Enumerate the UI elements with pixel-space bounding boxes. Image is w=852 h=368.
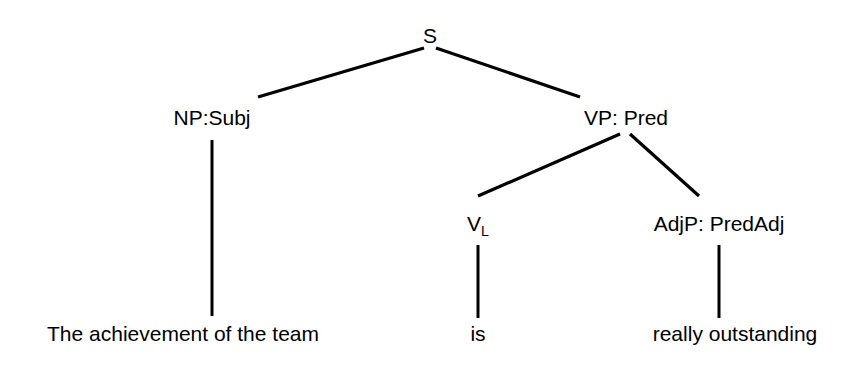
leaf-verb-text: is bbox=[470, 323, 485, 344]
node-vp-pred: VP: Pred bbox=[584, 107, 668, 128]
node-v-linking-main: V bbox=[467, 212, 481, 235]
node-s: S bbox=[423, 25, 437, 46]
node-np-subj: NP:Subj bbox=[173, 107, 250, 128]
edge-s-to-np bbox=[258, 48, 424, 97]
edge-vp-to-adjp bbox=[630, 134, 699, 196]
node-v-linking-subscript: L bbox=[481, 223, 489, 239]
edge-s-to-vp bbox=[436, 48, 580, 97]
tree-edges-layer bbox=[0, 0, 852, 368]
leaf-predicate-text: really outstanding bbox=[653, 323, 818, 344]
node-adjp-predadj: AdjP: PredAdj bbox=[654, 213, 785, 234]
syntax-tree-diagram: S NP:Subj VP: Pred VL AdjP: PredAdj The … bbox=[0, 0, 852, 368]
leaf-subject-text: The achievement of the team bbox=[47, 323, 319, 344]
node-v-linking: VL bbox=[467, 213, 489, 238]
edge-vp-to-v bbox=[478, 134, 620, 196]
